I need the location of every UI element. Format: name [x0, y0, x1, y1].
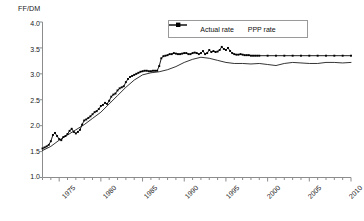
legend-entry-ppp-rate: PPP rate [248, 26, 276, 33]
axes [40, 22, 352, 182]
x-axis-ticks [43, 178, 352, 182]
series-line-actual-rate [43, 47, 352, 149]
legend-label-ppp-rate: PPP rate [248, 26, 276, 33]
legend-swatch-ppp-rate [169, 21, 187, 29]
data-series-group [42, 46, 352, 151]
legend-label-actual-rate: Actual rate [200, 26, 233, 33]
legend-entry-actual-rate: Actual rate [200, 26, 233, 33]
series-markers-actual-rate [42, 46, 352, 149]
legend: Actual rate PPP rate [168, 20, 308, 38]
series-line-ppp-rate [43, 57, 352, 150]
